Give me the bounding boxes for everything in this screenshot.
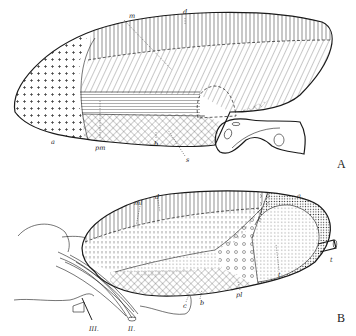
label-d-b: d — [155, 193, 159, 201]
region-a-horizontal — [80, 92, 200, 114]
label-t-inner: t — [278, 271, 281, 279]
label-ii: II. — [127, 325, 135, 333]
label-a: a — [51, 138, 55, 146]
label-m: m — [129, 12, 135, 20]
figure-canvas: m d a pm b s A — [0, 0, 356, 336]
label-pm: pm — [95, 144, 105, 152]
nerve-iii — [82, 298, 92, 320]
attachment-bone-a — [215, 119, 305, 154]
body-contour-b-upper — [18, 224, 69, 252]
label-ml: ml — [134, 199, 142, 207]
label-d: d — [183, 8, 187, 16]
panel-label-a: A — [337, 157, 346, 171]
label-iii: III. — [88, 325, 99, 333]
panel-b: ml d a t t pl b c III. II. B — [14, 180, 345, 333]
panel-label-b: B — [337, 311, 345, 325]
body-contour-b-lower — [14, 294, 94, 301]
label-b-b: b — [200, 299, 204, 307]
region-b-lobe — [251, 205, 319, 282]
label-a-b: a — [297, 192, 301, 200]
label-t-duct: t — [330, 256, 333, 264]
anatomical-figure: m d a pm b s A — [0, 0, 356, 336]
label-pl: pl — [236, 291, 242, 299]
label-b: b — [154, 140, 158, 148]
label-s: s — [186, 156, 190, 164]
panel-a: m d a pm b s A — [0, 0, 346, 171]
label-c: c — [183, 302, 187, 310]
